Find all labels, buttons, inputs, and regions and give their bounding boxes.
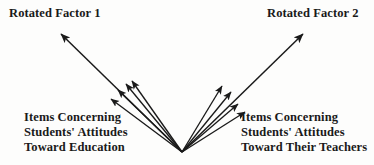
cluster-label-education: Items Concerning Students' Attitudes Tow…	[24, 110, 128, 156]
cluster-label-education-line-3: Toward Education	[24, 140, 128, 155]
cluster-label-teachers: Items Concerning Students' Attitudes Tow…	[241, 110, 367, 156]
teachers-vector-4	[182, 112, 245, 152]
axis-label-factor-2: Rotated Factor 2	[267, 6, 359, 21]
cluster-label-education-line-2: Students' Attitudes	[24, 125, 128, 140]
cluster-label-teachers-line-2: Students' Attitudes	[241, 125, 367, 140]
teachers-vector-2	[182, 92, 231, 152]
education-vector-1	[132, 81, 182, 152]
rotated-factor-diagram: Rotated Factor 1 Rotated Factor 2 Items …	[0, 0, 374, 165]
education-vector-2	[126, 84, 182, 152]
teachers-vector-3	[182, 104, 238, 152]
cluster-label-education-line-1: Items Concerning	[24, 110, 128, 125]
axis-label-factor-1: Rotated Factor 1	[9, 6, 101, 21]
cluster-label-teachers-line-3: Toward Their Teachers	[241, 140, 367, 155]
cluster-label-teachers-line-1: Items Concerning	[241, 110, 367, 125]
